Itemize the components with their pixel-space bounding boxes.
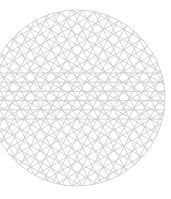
chord-line bbox=[0, 0, 155, 199]
line-pattern-figure bbox=[0, 0, 171, 199]
chord-line bbox=[0, 0, 155, 199]
